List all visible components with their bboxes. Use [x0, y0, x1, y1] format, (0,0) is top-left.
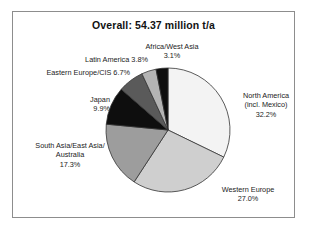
pie-label-name-line2: Australia — [14, 150, 126, 159]
pie-label-name: Japan — [52, 95, 110, 104]
pie-label-percent: 32.2% — [224, 110, 308, 119]
pie-label-name: Latin America — [85, 55, 129, 64]
pie-slice-group — [106, 68, 230, 192]
pie-label-africa-west-asia: Africa/West Asia 3.1% — [133, 42, 211, 61]
pie-label-eastern-europe-cis: Eastern Europe/CIS 6.7% — [18, 68, 130, 77]
pie-label-western-europe: Western Europe 27.0% — [198, 185, 298, 204]
pie-label-percent: 6.7% — [113, 68, 130, 77]
pie-label-south-asia-east-asia-australia: South Asia/East Asia/ Australia 17.3% — [14, 141, 126, 169]
pie-label-name-line2: (incl. Mexico) — [224, 100, 308, 109]
pie-label-north-america: North America (incl. Mexico) 32.2% — [224, 91, 308, 119]
pie-label-percent: 17.3% — [14, 160, 126, 169]
pie-label-percent: 9.9% — [52, 104, 110, 113]
pie-label-name: North America — [224, 91, 308, 100]
chart-figure: Overall: 54.37 million t/a North America… — [0, 0, 317, 234]
pie-label-name: Western Europe — [198, 185, 298, 194]
pie-label-percent: 3.1% — [133, 51, 211, 60]
pie-label-japan: Japan 9.9% — [52, 95, 110, 114]
pie-label-name: Africa/West Asia — [133, 42, 211, 51]
pie-label-percent: 27.0% — [198, 194, 298, 203]
pie-label-name: South Asia/East Asia/ — [14, 141, 126, 150]
pie-label-name: Eastern Europe/CIS — [46, 68, 111, 77]
